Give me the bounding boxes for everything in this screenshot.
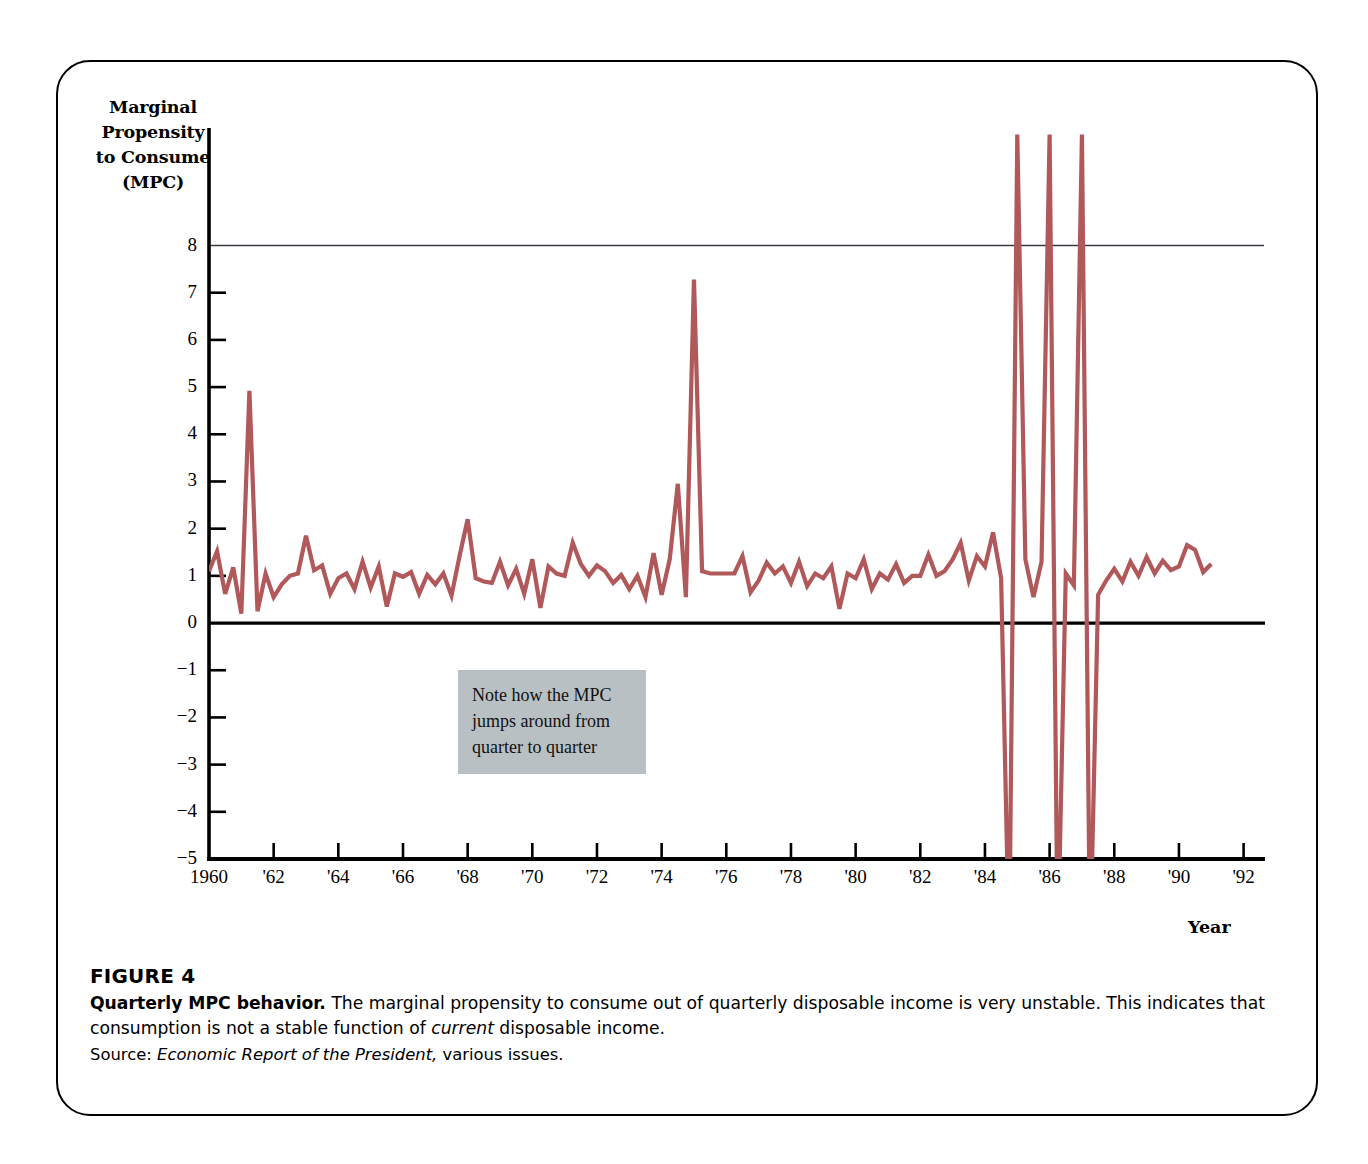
x-tick-label: '86 xyxy=(1015,866,1085,888)
x-tick-label: '90 xyxy=(1144,866,1214,888)
y-tick-label: 0 xyxy=(157,611,197,633)
axis-group xyxy=(207,128,1265,859)
figure-caption: FIGURE 4 Quarterly MPC behavior. The mar… xyxy=(90,964,1270,1067)
y-tick-label: 6 xyxy=(157,328,197,350)
annotation-line-1: Note how the MPC xyxy=(472,682,632,708)
y-tick-label: −2 xyxy=(157,705,197,727)
x-tick-label: '70 xyxy=(497,866,567,888)
source-publication-title: Economic Report of the President, xyxy=(157,1045,437,1064)
annotation-line-3: quarter to quarter xyxy=(472,734,632,760)
x-tick-label: 1960 xyxy=(174,866,244,888)
x-tick-label: '82 xyxy=(885,866,955,888)
y-tick-label: 7 xyxy=(157,281,197,303)
x-tick-label: '92 xyxy=(1209,866,1279,888)
source-prefix: Source: xyxy=(90,1045,157,1064)
x-tick-label: '74 xyxy=(627,866,697,888)
x-tick-label: '88 xyxy=(1079,866,1149,888)
annotation-callout: Note how the MPC jumps around from quart… xyxy=(458,670,646,774)
x-tick-label: '64 xyxy=(303,866,373,888)
x-axis-title: Year xyxy=(1188,917,1231,937)
x-tick-label: '80 xyxy=(821,866,891,888)
caption-title: Quarterly MPC behavior. xyxy=(90,993,326,1013)
caption-emphasis: current xyxy=(431,1018,494,1038)
y-tick-label: −3 xyxy=(157,753,197,775)
x-tick-label: '76 xyxy=(691,866,761,888)
y-tick-label: 2 xyxy=(157,517,197,539)
series-line-0 xyxy=(209,135,1211,952)
data-series-group xyxy=(209,135,1211,952)
caption-body: Quarterly MPC behavior. The marginal pro… xyxy=(90,991,1270,1041)
annotation-line-2: jumps around from xyxy=(472,708,632,734)
figure-card: Marginal Propensity to Consume (MPC) 876… xyxy=(56,60,1318,1116)
x-tick-label: '72 xyxy=(562,866,632,888)
figure-number: FIGURE 4 xyxy=(90,964,1270,988)
y-tick-label: 1 xyxy=(157,564,197,586)
x-tick-label: '62 xyxy=(239,866,309,888)
y-tick-label: −4 xyxy=(157,800,197,822)
source-suffix: various issues. xyxy=(437,1045,563,1064)
caption-source: Source: Economic Report of the President… xyxy=(90,1042,1270,1067)
x-tick-label: '66 xyxy=(368,866,438,888)
mpc-line-chart xyxy=(58,62,1320,952)
chart-plot-region: Marginal Propensity to Consume (MPC) 876… xyxy=(58,62,1320,952)
x-tick-label: '68 xyxy=(433,866,503,888)
y-tick-label: −1 xyxy=(157,658,197,680)
y-tick-label: 8 xyxy=(157,234,197,256)
x-tick-label: '84 xyxy=(950,866,1020,888)
caption-text-part-2: disposable income. xyxy=(494,1018,665,1038)
y-tick-label: 3 xyxy=(157,469,197,491)
y-tick-label: 5 xyxy=(157,375,197,397)
y-tick-label: 4 xyxy=(157,422,197,444)
x-tick-label: '78 xyxy=(756,866,826,888)
